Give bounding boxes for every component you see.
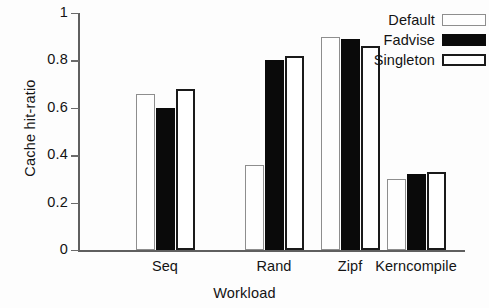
x-axis-category-label: Seq [105,258,225,274]
bar-singleton-rand [285,56,304,250]
legend-label: Fadvise [384,32,435,48]
legend-label: Default [388,12,435,28]
y-axis-tick-label: 0.2 [8,195,68,210]
chart-legend: DefaultFadviseSingleton [348,10,486,70]
bar-default-zipf [321,37,340,250]
bar-fadvise-seq [156,108,175,250]
legend-label: Singleton [374,52,435,68]
x-axis-title: Workload [0,285,489,301]
y-axis-tick-mark [71,155,79,156]
bar-singleton-kerncompile [427,172,446,250]
legend-item-default: Default [348,10,486,29]
y-axis-title: Cache hit-ratio [22,38,38,218]
bar-fadvise-kerncompile [407,174,426,250]
y-axis-tick-label: 0 [8,242,68,257]
x-axis-line [78,250,465,252]
legend-item-singleton: Singleton [348,50,486,69]
bar-default-kerncompile [387,179,406,250]
y-axis-tick-mark [71,203,79,204]
bar-fadvise-zipf [341,39,360,250]
y-axis-tick-label: 1 [8,5,68,20]
bar-default-seq [136,94,155,250]
x-axis-category-label: Kerncompile [356,258,476,274]
bar-group [245,13,304,250]
bar-default-rand [245,165,264,250]
y-axis-tick-label: 0.8 [8,52,68,67]
bar-singleton-zipf [361,46,380,250]
y-axis-tick-mark [71,108,79,109]
y-axis-tick-mark [71,60,79,61]
legend-item-fadvise: Fadvise [348,30,486,49]
legend-swatch-singleton [442,54,486,66]
bar-fadvise-rand [265,60,284,250]
y-axis-tick-label: 0.6 [8,100,68,115]
bar-group [136,13,195,250]
legend-swatch-fadvise [442,34,486,46]
y-axis-tick-label: 0.4 [8,147,68,162]
bar-singleton-seq [176,89,195,250]
legend-swatch-default [442,14,486,26]
y-axis-tick-mark [71,13,79,14]
y-axis-tick-mark [71,250,79,251]
cache-hit-ratio-bar-chart: 00.20.40.60.81 SeqRandZipfKerncompile Wo… [0,0,489,308]
